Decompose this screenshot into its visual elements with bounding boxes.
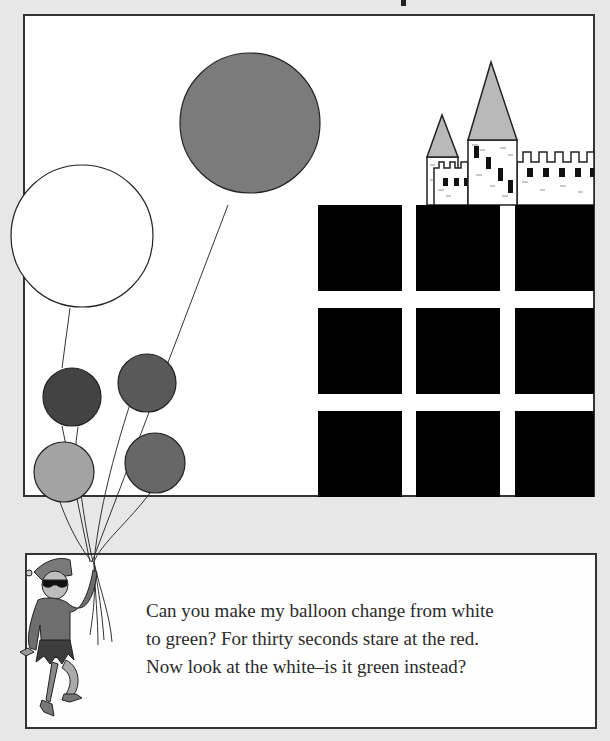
medium-balloon-lower — [125, 433, 185, 493]
light-balloon — [34, 442, 94, 502]
dark-balloon — [43, 368, 101, 426]
medium-balloon-upper — [118, 354, 176, 412]
caption-text: Can you make my balloon change from whit… — [146, 597, 576, 681]
caption-line-2: to green? For thirty seconds stare at th… — [146, 625, 576, 653]
grid-square — [416, 205, 500, 291]
grid-square — [318, 411, 402, 497]
grid-square — [515, 308, 594, 394]
grid-square — [515, 411, 594, 497]
grid-square — [515, 205, 594, 291]
caption-line-1: Can you make my balloon change from whit… — [146, 597, 576, 625]
grid-square — [416, 411, 500, 497]
caption-line-3: Now look at the white–is it green instea… — [146, 653, 576, 681]
grid-square — [416, 308, 500, 394]
grid-square — [318, 205, 402, 291]
white-balloon — [11, 165, 153, 307]
grid-square — [318, 308, 402, 394]
black-square-grid — [318, 205, 594, 497]
heading-fragment — [401, 0, 406, 6]
large-gray-balloon — [180, 53, 320, 193]
